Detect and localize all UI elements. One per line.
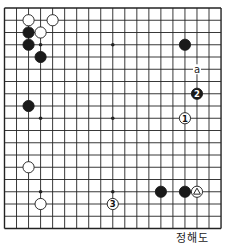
white-stone: 1 xyxy=(179,113,190,124)
black-stone xyxy=(179,186,190,197)
star-point xyxy=(39,43,43,47)
white-stone xyxy=(23,15,34,26)
white-stone xyxy=(35,27,46,38)
black-stone xyxy=(35,51,46,62)
black-stone xyxy=(155,186,166,197)
go-board: a213 xyxy=(0,0,225,243)
star-point xyxy=(111,116,115,120)
move-number: 1 xyxy=(182,114,188,124)
move-number: 3 xyxy=(110,199,116,209)
star-point xyxy=(39,190,43,194)
white-stone xyxy=(191,186,202,197)
black-stone xyxy=(23,39,34,50)
black-stone xyxy=(23,100,34,111)
point-label-a: a xyxy=(194,64,200,75)
black-stone: 2 xyxy=(191,88,202,99)
diagram-caption: 정해도 xyxy=(176,229,209,243)
white-stone: 3 xyxy=(107,198,118,209)
star-point xyxy=(111,190,115,194)
black-stone xyxy=(179,39,190,50)
star-point xyxy=(39,116,43,120)
white-stone xyxy=(35,198,46,209)
black-stone xyxy=(23,27,34,38)
white-stone xyxy=(47,15,58,26)
move-number: 2 xyxy=(194,89,200,99)
white-stone xyxy=(23,162,34,173)
star-point xyxy=(111,43,115,47)
